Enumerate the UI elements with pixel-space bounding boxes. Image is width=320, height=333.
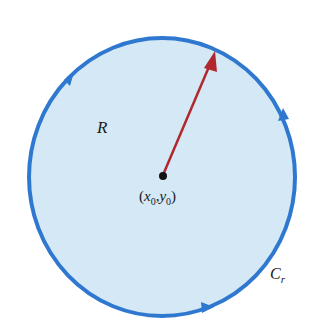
- region-label: R: [96, 118, 108, 137]
- center-point: [159, 172, 167, 180]
- curve-label: Cr: [270, 265, 286, 285]
- diagram-canvas: R (x0,y0) Cr: [0, 0, 320, 333]
